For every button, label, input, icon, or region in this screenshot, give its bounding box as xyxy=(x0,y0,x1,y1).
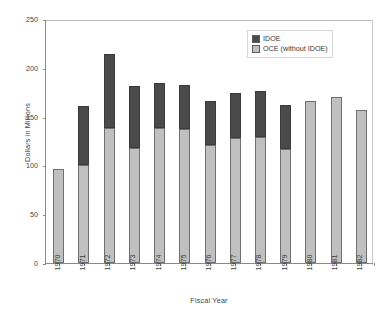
y-tick-label: 100 xyxy=(12,162,38,169)
y-tick-label: 150 xyxy=(12,114,38,121)
bar-chart: Dollars in Millions 050100150200250 1970… xyxy=(0,0,382,312)
y-tick-label: 0 xyxy=(12,260,38,267)
bar-group[interactable] xyxy=(78,19,89,263)
bar-group[interactable] xyxy=(129,19,140,263)
bar-segment-oce[interactable] xyxy=(331,97,342,263)
x-tick-label: 1981 xyxy=(332,255,339,285)
bar-group[interactable] xyxy=(104,19,115,263)
bar-group[interactable] xyxy=(154,19,165,263)
legend-swatch-icon xyxy=(252,45,260,53)
bar-group[interactable] xyxy=(356,19,367,263)
x-tick-label: 1973 xyxy=(130,255,137,285)
bar-segment-idoe[interactable] xyxy=(129,86,140,147)
x-tick-label: 1972 xyxy=(104,255,111,285)
y-axis-tick xyxy=(43,69,46,70)
bar-group[interactable] xyxy=(230,19,241,263)
bar-segment-idoe[interactable] xyxy=(255,91,266,137)
legend-item[interactable]: IDOE xyxy=(252,34,328,44)
bar-segment-idoe[interactable] xyxy=(230,93,241,138)
x-tick-label: 1979 xyxy=(281,255,288,285)
x-tick-label: 1975 xyxy=(180,255,187,285)
x-tick-label: 1977 xyxy=(231,255,238,285)
bar-segment-oce[interactable] xyxy=(205,145,216,263)
legend-label: OCE (without IDOE) xyxy=(263,45,328,52)
bar-segment-idoe[interactable] xyxy=(104,54,115,128)
bar-segment-oce[interactable] xyxy=(179,129,190,263)
y-axis-tick xyxy=(43,118,46,119)
x-tick-label: 1976 xyxy=(205,255,212,285)
bar-segment-oce[interactable] xyxy=(280,149,291,263)
x-tick-label: 1978 xyxy=(256,255,263,285)
bar-segment-oce[interactable] xyxy=(104,128,115,263)
y-axis-tick xyxy=(43,166,46,167)
bar-segment-oce[interactable] xyxy=(356,110,367,263)
legend-label: IDOE xyxy=(263,35,281,42)
y-axis-tick xyxy=(43,264,46,265)
bar-group[interactable] xyxy=(205,19,216,263)
legend-swatch-icon xyxy=(252,35,260,43)
x-axis-tick xyxy=(374,263,375,266)
bar-segment-oce[interactable] xyxy=(230,138,241,263)
x-axis-tick-labels: 1970197119721973197419751976197719781979… xyxy=(45,266,373,296)
bar-segment-oce[interactable] xyxy=(255,137,266,263)
bar-group[interactable] xyxy=(53,19,64,263)
y-tick-label: 250 xyxy=(12,16,38,23)
x-tick-label: 1980 xyxy=(306,255,313,285)
bar-segment-idoe[interactable] xyxy=(205,101,216,145)
bar-segment-oce[interactable] xyxy=(53,169,64,263)
bar-segment-idoe[interactable] xyxy=(154,83,165,128)
bar-segment-oce[interactable] xyxy=(154,128,165,263)
bar-segment-idoe[interactable] xyxy=(78,106,89,166)
chart-legend: IDOEOCE (without IDOE) xyxy=(247,30,333,58)
bar-segment-oce[interactable] xyxy=(129,148,140,263)
x-tick-label: 1974 xyxy=(155,255,162,285)
y-axis-tick xyxy=(43,215,46,216)
x-tick-label: 1970 xyxy=(54,255,61,285)
bar-group[interactable] xyxy=(179,19,190,263)
x-tick-label: 1971 xyxy=(79,255,86,285)
y-axis-tick-labels: 050100150200250 xyxy=(8,0,38,312)
bar-segment-oce[interactable] xyxy=(78,165,89,263)
legend-item[interactable]: OCE (without IDOE) xyxy=(252,44,328,54)
x-tick-label: 1982 xyxy=(357,255,364,285)
y-tick-label: 50 xyxy=(12,211,38,218)
y-axis-tick xyxy=(43,20,46,21)
bar-segment-idoe[interactable] xyxy=(179,85,190,129)
x-axis-title: Fiscal Year xyxy=(45,296,373,305)
y-tick-label: 200 xyxy=(12,65,38,72)
bar-segment-oce[interactable] xyxy=(305,101,316,263)
bar-segment-idoe[interactable] xyxy=(280,105,291,149)
